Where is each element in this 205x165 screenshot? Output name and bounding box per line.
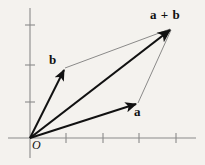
label-vector-b: b [49,53,57,66]
guide-b-to-sum [65,29,170,68]
vector-group [30,30,170,138]
label-vector-sum: a + b [150,8,180,21]
vector-diagram-canvas [0,0,205,165]
label-vector-a: a [134,105,141,118]
vector-addition-figure: a + b b a O [0,0,205,165]
vector-a-arrow [30,104,136,138]
vector-sum-arrow [30,30,170,138]
label-origin: O [32,139,41,151]
parallelogram-guides [65,29,171,103]
